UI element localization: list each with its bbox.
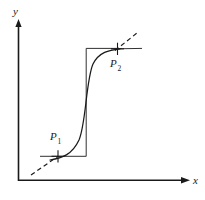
sigmoid-step-diagram: y x — [0, 0, 205, 200]
p2-label-subscript: 2 — [118, 64, 122, 73]
p1-marker-plus-icon — [52, 150, 65, 162]
figure-canvas: y x — [0, 0, 205, 200]
x-axis-arrowhead — [181, 177, 190, 184]
y-axis-label: y — [12, 5, 18, 17]
y-axis-arrowhead — [15, 19, 21, 27]
p1-label-group: P 1 — [49, 130, 62, 146]
p2-label-group: P 2 — [109, 57, 122, 73]
x-axis-label: x — [192, 174, 198, 186]
p2-label: P — [109, 57, 117, 69]
p1-label: P — [49, 130, 57, 142]
axes-group: y x — [12, 5, 198, 186]
p1-label-subscript: 1 — [58, 137, 62, 146]
p2-tangent-dashed — [115, 33, 137, 51]
